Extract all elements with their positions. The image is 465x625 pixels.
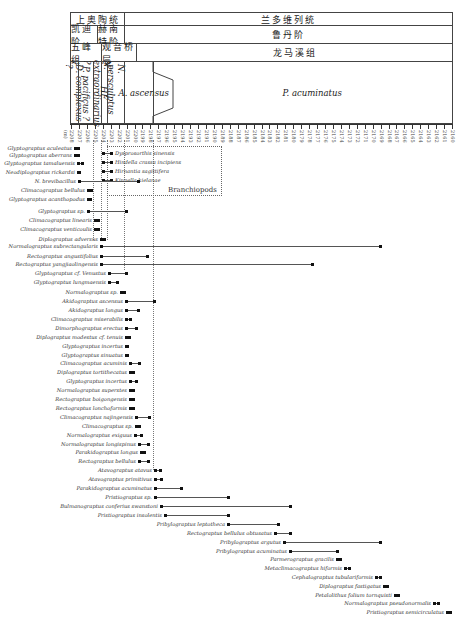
x-tick [230, 124, 231, 129]
taxon-label: Cephalograptus tubulariformis [292, 574, 373, 580]
range-end-dot [78, 171, 81, 174]
taxon-label: Rectograptus yangjiaolingensis [15, 261, 98, 267]
x-tick-label: 2182 [275, 130, 281, 143]
taxon-label: Normalograptus superstes [57, 387, 127, 393]
x-tick [119, 124, 120, 129]
range-bar [79, 181, 138, 182]
x-tick [214, 124, 215, 129]
range-bar [101, 256, 147, 257]
x-tick-label: 2164 [418, 130, 424, 143]
x-tick [404, 124, 405, 129]
x-tick [293, 124, 294, 129]
range-start-dot [125, 300, 128, 303]
x-tick [412, 124, 413, 129]
x-tick-label: 2173 [347, 130, 353, 143]
taxon-label: Normalograptus exiguus [67, 432, 132, 438]
brachiopod-taxon-label: Hirnantia sagittifera [115, 168, 169, 174]
range-end-dot [126, 345, 129, 348]
range-start-dot [160, 505, 163, 508]
x-tick [444, 124, 445, 129]
x-tick-label: 2199 [140, 130, 146, 143]
range-end-dot [102, 170, 105, 173]
range-start-dot [227, 523, 230, 526]
x-tick-label: 2193 [188, 130, 194, 143]
taxon-label: Pribylograptus leptotheca [157, 521, 225, 527]
range-bar [155, 488, 181, 489]
taxon-label: Normalograptus sp. [65, 289, 118, 295]
range-end-dot [135, 327, 138, 330]
taxon-label: Akidograptus ascensus [62, 298, 123, 304]
x-tick [246, 124, 247, 129]
taxon-label: Diplograptus tortithecatus [57, 369, 127, 375]
taxon-label: Rectograptus angustifolius [27, 253, 98, 259]
range-end-dot [143, 451, 146, 454]
taxon-label: Bulmanograptus conferius swanstoni [60, 503, 158, 509]
range-start-dot [134, 434, 137, 437]
x-tick [182, 124, 183, 129]
x-tick [452, 124, 453, 129]
taxon-label: Normalograptus subrectangularis [9, 243, 98, 249]
taxon-label: Glyptograptus incertus [62, 343, 123, 349]
x-tick-label: 2174 [339, 130, 345, 143]
range-end-dot [311, 263, 314, 266]
range-bar [284, 542, 380, 543]
taxon-label: Atavograptus atavus [98, 467, 152, 473]
x-tick-label: 2186 [244, 130, 250, 143]
range-start-dot [129, 380, 132, 383]
range-start-dot [135, 416, 138, 419]
range-bar [161, 506, 290, 507]
range-end-dot [153, 300, 156, 303]
x-tick-label: 2183 [267, 130, 273, 143]
taxon-label: Normalograptus pseudonormalis [344, 600, 431, 606]
taxon-label: Pristiograptus semicirculatus [366, 609, 444, 615]
taxon-label: Pribylograptus argutus [220, 539, 281, 545]
range-end-dot [180, 487, 183, 490]
range-start-dot [289, 550, 292, 553]
range-start-dot [274, 532, 277, 535]
x-tick [150, 124, 151, 129]
x-tick [428, 124, 429, 129]
range-end-dot [125, 210, 128, 213]
taxon-label: Rectograptus boigongensis [55, 396, 127, 402]
range-start-dot [87, 210, 90, 213]
x-tick [142, 124, 143, 129]
range-start-dot [344, 567, 347, 570]
x-tick-label: 2187 [236, 130, 242, 143]
x-tick [325, 124, 326, 129]
range-start-dot [125, 327, 128, 330]
x-tick [262, 124, 263, 129]
x-tick-label: 2200 [133, 130, 139, 143]
x-tick [87, 124, 88, 129]
range-end-dot [97, 219, 100, 222]
range-end-dot [437, 602, 440, 605]
x-tick-label: 2180 [291, 130, 297, 143]
taxon-label: Dimorphograptus erectus [55, 325, 123, 331]
x-tick-label: 2208 [69, 130, 75, 143]
zone-guide-line [101, 140, 102, 240]
x-tick [206, 124, 207, 129]
range-end-dot [379, 576, 382, 579]
x-tick-label: 2161 [442, 130, 448, 143]
range-bar [165, 515, 228, 516]
x-tick-label: 2160 [450, 130, 456, 143]
taxon-label: Glyptograptus sinuatus [62, 352, 123, 358]
range-end-dot [123, 291, 126, 294]
taxon-label: Diplograptus adversus [39, 236, 98, 242]
range-start-dot [154, 496, 157, 499]
taxon-label: Climacograptus linearis [29, 217, 92, 223]
range-end-dot [116, 281, 119, 284]
range-end-dot [81, 162, 84, 165]
range-bar [275, 533, 290, 534]
taxon-label: Pristiograptus insolentis [98, 512, 162, 518]
range-start-dot [77, 162, 80, 165]
x-axis-unit: (m) [63, 130, 69, 139]
range-end-dot [137, 309, 140, 312]
taxon-label: Metaclimacograptus hiformis [264, 565, 342, 571]
range-start-dot [125, 309, 128, 312]
range-end-dot [148, 416, 151, 419]
range-end-dot [147, 460, 150, 463]
x-tick [158, 124, 159, 129]
range-end-dot [110, 170, 113, 173]
taxon-label: Climacograptus miserabilis [51, 316, 123, 322]
taxon-label: Glyptograptus incertus [66, 378, 127, 384]
